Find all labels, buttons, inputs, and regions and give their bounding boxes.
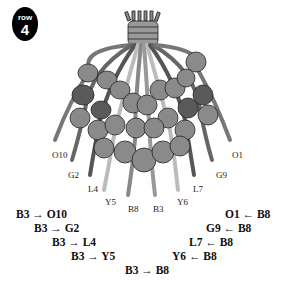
rule-left: B3 → L4 <box>52 236 96 248</box>
rule-right: L7 ← B8 <box>189 236 233 248</box>
rule-left: B3 → O10 <box>16 208 67 220</box>
strand-label: G2 <box>68 170 79 180</box>
strand-label: G9 <box>216 170 227 180</box>
strand-label: O1 <box>232 150 243 160</box>
rule-right: G9 ← B8 <box>206 222 251 234</box>
strand-label: L4 <box>88 184 98 194</box>
strand-label: L7 <box>193 184 203 194</box>
rule-left: B3 → G2 <box>34 222 79 234</box>
strand-label: Y6 <box>177 197 188 207</box>
rule-center: B3 → B8 <box>125 264 169 276</box>
rule-right: O1 ← B8 <box>225 208 270 220</box>
strand-label: O10 <box>52 150 68 160</box>
strand-label: Y5 <box>105 197 116 207</box>
knotting-diagram <box>0 0 288 210</box>
strand-label: B8 <box>128 204 139 214</box>
rule-left: B3 → Y5 <box>71 250 115 262</box>
rule-right: Y6 ← B8 <box>172 250 217 262</box>
strand-label: B3 <box>153 204 164 214</box>
